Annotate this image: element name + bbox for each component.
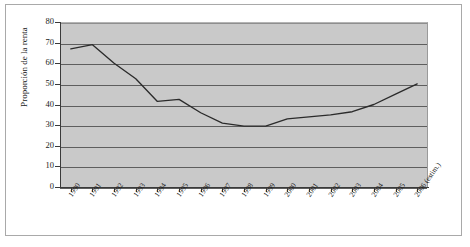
y-tick-label-0: 0 bbox=[14, 182, 54, 191]
gridline-50 bbox=[60, 85, 427, 86]
plot-area bbox=[60, 22, 428, 187]
gridline-70 bbox=[60, 44, 427, 45]
y-tick-60 bbox=[55, 63, 60, 64]
gridline-10 bbox=[60, 167, 427, 168]
y-axis-line bbox=[60, 22, 61, 188]
gridline-20 bbox=[60, 147, 427, 148]
gridline-80 bbox=[60, 23, 427, 24]
y-tick-20 bbox=[55, 146, 60, 147]
gridline-60 bbox=[60, 64, 427, 65]
y-tick-label-20: 20 bbox=[14, 141, 54, 150]
y-tick-30 bbox=[55, 125, 60, 126]
y-tick-40 bbox=[55, 105, 60, 106]
y-tick-0 bbox=[55, 187, 60, 188]
y-tick-10 bbox=[55, 166, 60, 167]
y-tick-label-10: 10 bbox=[14, 161, 54, 170]
y-tick-80 bbox=[55, 22, 60, 23]
chart-figure: 01020304050607080 1990199119921993199419… bbox=[0, 0, 470, 247]
gridline-40 bbox=[60, 106, 427, 107]
y-axis-label: Proporción de la renta bbox=[19, 0, 29, 137]
y-tick-50 bbox=[55, 84, 60, 85]
y-tick-70 bbox=[55, 43, 60, 44]
gridline-30 bbox=[60, 126, 427, 127]
